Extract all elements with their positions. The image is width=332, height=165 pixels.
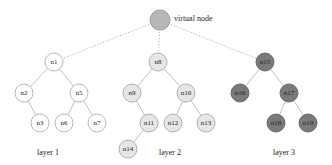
tree-node-n13: n13 xyxy=(197,114,215,132)
tree-node-n9: n9 xyxy=(123,84,141,102)
layer-caption: layer 1 xyxy=(37,148,59,157)
virtual-node: virtual node xyxy=(150,10,213,30)
node-label: n17 xyxy=(284,89,295,97)
node-label: n15 xyxy=(260,58,271,66)
hierarchy-diagram: n1n2n5n3n6n7n8n9n10n11n12n13n14n15n16n17… xyxy=(0,0,332,165)
tree-nodes: n1n2n5n3n6n7n8n9n10n11n12n13n14n15n16n17… xyxy=(15,53,317,158)
node-label: n14 xyxy=(123,145,134,153)
tree-node-n1: n1 xyxy=(45,53,63,71)
tree-node-n10: n10 xyxy=(177,84,195,102)
tree-node-n14: n14 xyxy=(119,140,137,158)
node-label: n18 xyxy=(271,119,282,127)
layer-captions: layer 1layer 2layer 3 xyxy=(37,148,295,157)
node-label: n13 xyxy=(201,119,212,127)
tree-node-n8: n8 xyxy=(149,53,167,71)
tree-node-n7: n7 xyxy=(88,114,106,132)
tree-node-n5: n5 xyxy=(70,84,88,102)
node-label: n1 xyxy=(51,58,59,66)
tree-node-n6: n6 xyxy=(55,114,73,132)
node-label: n8 xyxy=(155,58,163,66)
node-label: n2 xyxy=(21,89,29,97)
tree-node-n2: n2 xyxy=(15,84,33,102)
layer-caption: layer 3 xyxy=(273,148,295,157)
tree-node-n18: n18 xyxy=(267,114,285,132)
tree-node-n17: n17 xyxy=(280,84,298,102)
node-label: n10 xyxy=(181,89,192,97)
virtual-edge xyxy=(160,20,265,62)
node-label: n16 xyxy=(235,89,246,97)
tree-node-n11: n11 xyxy=(140,114,158,132)
tree-node-n19: n19 xyxy=(299,114,317,132)
virtual-node-label: virtual node xyxy=(174,14,213,23)
node-label: n11 xyxy=(144,119,155,127)
tree-edges xyxy=(24,62,308,149)
tree-node-n12: n12 xyxy=(164,114,182,132)
virtual-node-circle xyxy=(150,10,170,30)
tree-node-n16: n16 xyxy=(231,84,249,102)
node-label: n9 xyxy=(129,89,137,97)
layer-caption: layer 2 xyxy=(159,148,181,157)
node-label: n6 xyxy=(61,119,69,127)
tree-node-n15: n15 xyxy=(256,53,274,71)
node-label: n7 xyxy=(94,119,102,127)
node-label: n12 xyxy=(168,119,179,127)
virtual-edge xyxy=(54,20,160,62)
node-label: n5 xyxy=(76,89,84,97)
node-label: n19 xyxy=(303,119,314,127)
node-label: n3 xyxy=(37,119,45,127)
tree-node-n3: n3 xyxy=(31,114,49,132)
